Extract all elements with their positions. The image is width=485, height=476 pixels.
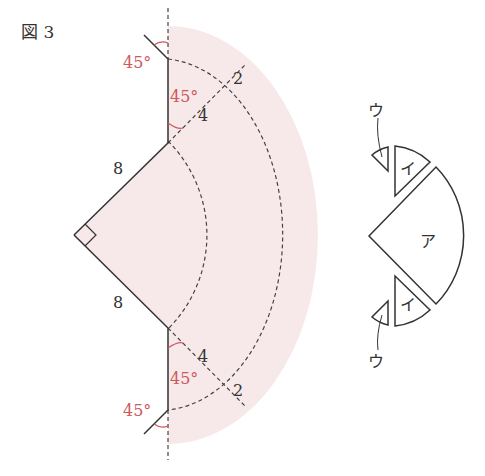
- segment-label-top-near: 4: [198, 106, 208, 125]
- angle-arc-bottom-outer: [154, 424, 168, 427]
- segment-label-bottom-near: 4: [198, 347, 208, 366]
- piece-u-lower-label: ウ: [368, 352, 384, 371]
- angle-arc-top-outer: [154, 42, 168, 45]
- angle-label-bottom-outer: 45°: [123, 401, 151, 420]
- angle-label-top-outer: 45°: [123, 53, 151, 72]
- angle-label-bottom-inner: 45°: [170, 369, 198, 388]
- angle-label-top-inner: 45°: [170, 87, 198, 106]
- piece-i-lower-label: イ: [400, 295, 416, 314]
- segment-label-bottom-far: 2: [233, 381, 243, 400]
- piece-a-shape: [369, 167, 464, 304]
- geometry-figure: 8 8 45° 45° 45° 45° 4 2 4 2 ア イ イ ウ ウ: [0, 0, 485, 476]
- segment-label-top-far: 2: [233, 69, 243, 88]
- piece-u-upper-label: ウ: [368, 101, 384, 120]
- piece-i-upper-label: イ: [400, 159, 416, 178]
- side-label-lower: 8: [113, 293, 123, 312]
- side-label-upper: 8: [113, 159, 123, 178]
- piece-a-label: ア: [420, 232, 436, 251]
